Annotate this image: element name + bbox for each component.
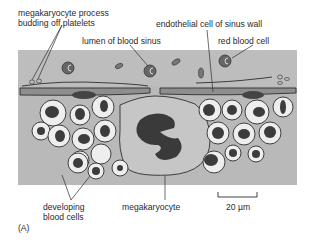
label-megakaryocyte: megakaryocyte xyxy=(122,202,180,212)
endothelial-nucleus xyxy=(242,91,264,99)
label-red-blood-cell: red blood cell xyxy=(218,36,269,46)
label-endothelial-cell: endothelial cell of sinus wall xyxy=(156,19,262,29)
label-developing-blood-cells: developing blood cells xyxy=(43,202,85,222)
scale-bar xyxy=(218,192,257,197)
label-megakaryocyte-process: megakaryocyte process budding off platel… xyxy=(18,8,109,28)
sinus-lumen xyxy=(18,50,297,86)
label-panel: (A) xyxy=(18,223,29,233)
label-lumen: lumen of blood sinus xyxy=(82,36,161,46)
label-scale-bar: 20 µm xyxy=(226,202,250,212)
endothelial-nucleus xyxy=(72,91,96,99)
